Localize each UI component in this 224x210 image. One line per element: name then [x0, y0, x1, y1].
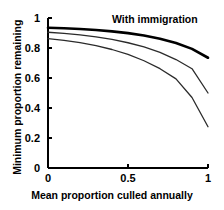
- data-series-group: [48, 28, 208, 127]
- xtick-label-0: 0: [38, 173, 58, 184]
- chart-figure: 1 0.8 0.6 0.4 0.2 0 0 0.5 1 Mean proport…: [0, 0, 224, 210]
- annotation-with-immigration: With immigration: [112, 14, 198, 25]
- x-axis-title: Mean proportion culled annually: [0, 190, 224, 201]
- xtick-label-1: 1: [198, 173, 218, 184]
- data-line-2: [48, 39, 208, 127]
- y-axis-title: Minimum proportion remaining: [12, 17, 23, 177]
- xtick-label-0-5: 0.5: [113, 173, 143, 184]
- axes: [48, 18, 208, 169]
